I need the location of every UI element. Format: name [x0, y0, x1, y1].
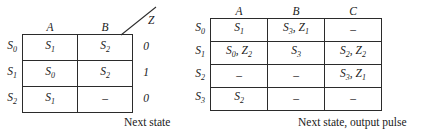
left-output-s2: 0	[133, 86, 160, 112]
right-table-head: A B C	[190, 6, 382, 18]
left-cell-s2-a[interactable]: S1	[23, 86, 78, 112]
table-row: S2 – – S3, Z1	[190, 64, 382, 87]
right-col-header-b: B	[268, 6, 325, 18]
right-state-table-block: A B C S0 S1 S3, Z1 – S1 S0, Z2 S3 S2, Z2	[190, 6, 382, 111]
right-table-header-row: A B C	[190, 6, 382, 18]
right-cell-s0-b[interactable]: S3, Z1	[268, 18, 325, 41]
right-cell-s1-c[interactable]: S2, Z2	[325, 41, 382, 64]
left-row-label-s2: S2	[2, 86, 23, 112]
right-state-table: A B C S0 S1 S3, Z1 – S1 S0, Z2 S3 S2, Z2	[190, 6, 382, 111]
right-cell-s2-b[interactable]: –	[268, 64, 325, 87]
left-state-table: A B S0 S1 S2 0 S1 S0 S2 1	[2, 22, 159, 113]
right-table-body: S0 S1 S3, Z1 – S1 S0, Z2 S3 S2, Z2 S2 – …	[190, 18, 382, 110]
right-col-header-a: A	[211, 6, 268, 18]
table-row: S0 S1 S2 0	[2, 34, 159, 60]
right-cell-s1-a[interactable]: S0, Z2	[211, 41, 268, 64]
left-output-s0: 0	[133, 34, 160, 60]
left-cell-s0-b[interactable]: S2	[78, 34, 133, 60]
left-table-corner	[2, 22, 23, 34]
left-table-header-row: A B	[2, 22, 159, 34]
right-cell-s1-b[interactable]: S3	[268, 41, 325, 64]
right-cell-s0-c[interactable]: –	[325, 18, 382, 41]
right-col-header-c: C	[325, 6, 382, 18]
right-cell-s3-c[interactable]: –	[325, 87, 382, 110]
right-cell-s3-a[interactable]: S2	[211, 87, 268, 110]
table-row: S2 S1 – 0	[2, 86, 159, 112]
left-table-body: S0 S1 S2 0 S1 S0 S2 1 S2 S1 – 0	[2, 34, 159, 112]
left-cell-s2-b[interactable]: –	[78, 86, 133, 112]
left-cell-s1-a[interactable]: S0	[23, 60, 78, 86]
left-table-caption: Next state	[124, 116, 170, 128]
left-row-label-s0: S0	[2, 34, 23, 60]
left-table-head: A B	[2, 22, 159, 34]
right-table-corner	[190, 6, 211, 18]
right-cell-s0-a[interactable]: S1	[211, 18, 268, 41]
right-cell-s3-b[interactable]: –	[268, 87, 325, 110]
right-row-label-s0: S0	[190, 18, 211, 41]
table-row: S1 S0, Z2 S3 S2, Z2	[190, 41, 382, 64]
figure-root: A B S0 S1 S2 0 S1 S0 S2 1	[0, 0, 434, 136]
left-col-header-b: B	[78, 22, 133, 34]
left-row-label-s1: S1	[2, 60, 23, 86]
table-row: S3 S2 – –	[190, 87, 382, 110]
left-col-header-a: A	[23, 22, 78, 34]
right-cell-s2-c[interactable]: S3, Z1	[325, 64, 382, 87]
left-cell-s0-a[interactable]: S1	[23, 34, 78, 60]
right-row-label-s3: S3	[190, 87, 211, 110]
left-state-table-block: A B S0 S1 S2 0 S1 S0 S2 1	[2, 22, 159, 113]
table-row: S0 S1 S3, Z1 –	[190, 18, 382, 41]
right-table-caption: Next state, output pulse	[298, 116, 407, 128]
table-row: S1 S0 S2 1	[2, 60, 159, 86]
left-output-header-label: Z	[148, 14, 154, 26]
left-output-s1: 1	[133, 60, 160, 86]
left-col-header-z	[133, 22, 160, 34]
right-row-label-s2: S2	[190, 64, 211, 87]
right-cell-s2-a[interactable]: –	[211, 64, 268, 87]
left-cell-s1-b[interactable]: S2	[78, 60, 133, 86]
right-row-label-s1: S1	[190, 41, 211, 64]
